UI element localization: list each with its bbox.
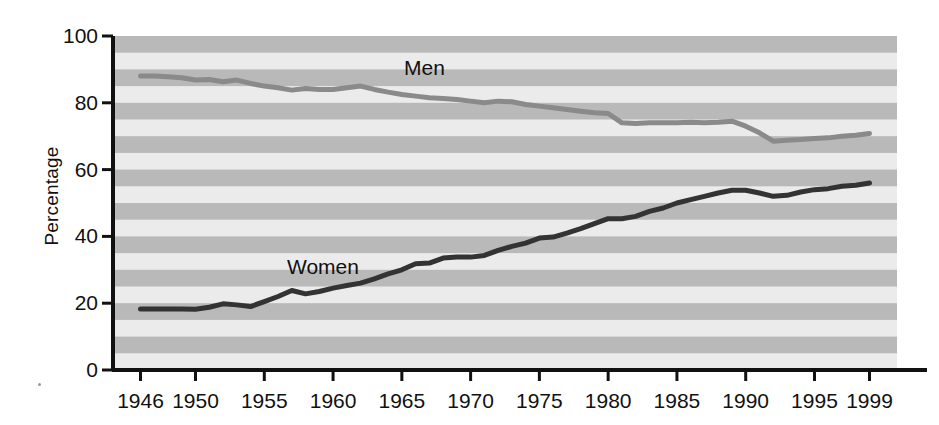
x-tick-label: 1985 <box>647 390 707 411</box>
y-tick-label: 20 <box>40 292 98 313</box>
x-tick-label: 1980 <box>578 390 638 411</box>
x-tick-label: 1999 <box>839 390 899 411</box>
y-tick-label: 80 <box>40 92 98 113</box>
y-tick-label: 40 <box>40 225 98 246</box>
x-tick-label: 1960 <box>303 390 363 411</box>
plot-canvas <box>0 0 939 425</box>
y-tick-label: 0 <box>40 359 98 380</box>
series-label-women: Women <box>287 255 359 279</box>
y-tick-label: 100 <box>40 25 98 46</box>
x-tick-label: 1970 <box>441 390 501 411</box>
x-tick-label: 1965 <box>372 390 432 411</box>
background-bands <box>113 36 897 370</box>
x-tick-label: 1995 <box>784 390 844 411</box>
x-tick-label: 1946 <box>111 390 171 411</box>
corner-speck <box>38 383 41 386</box>
series-label-men: Men <box>404 56 445 80</box>
x-tick-label: 1950 <box>166 390 226 411</box>
chart-figure: Percentage 020406080100 1946195019551960… <box>0 0 939 425</box>
x-tick-label: 1955 <box>234 390 294 411</box>
y-axis-title: Percentage <box>41 96 63 296</box>
x-tick-label: 1990 <box>716 390 776 411</box>
x-tick-label: 1975 <box>509 390 569 411</box>
y-tick-label: 60 <box>40 159 98 180</box>
